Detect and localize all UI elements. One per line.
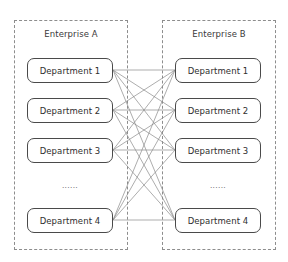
diagram-canvas: Enterprise A Enterprise B Department 1 D… <box>0 0 288 262</box>
enterprise-a-department-4[interactable]: Department 4 <box>27 208 113 233</box>
enterprise-a-title: Enterprise A <box>15 29 127 40</box>
enterprise-b-ellipsis: ...... <box>175 181 261 191</box>
enterprise-a-department-2[interactable]: Department 2 <box>27 98 113 123</box>
enterprise-a-ellipsis: ...... <box>27 181 113 191</box>
enterprise-a-department-1[interactable]: Department 1 <box>27 58 113 83</box>
enterprise-a-department-3[interactable]: Department 3 <box>27 138 113 163</box>
enterprise-b-department-2[interactable]: Department 2 <box>175 98 261 123</box>
enterprise-b-title: Enterprise B <box>163 29 275 40</box>
enterprise-b-department-1[interactable]: Department 1 <box>175 58 261 83</box>
enterprise-b-department-4[interactable]: Department 4 <box>175 208 261 233</box>
enterprise-b-department-3[interactable]: Department 3 <box>175 138 261 163</box>
